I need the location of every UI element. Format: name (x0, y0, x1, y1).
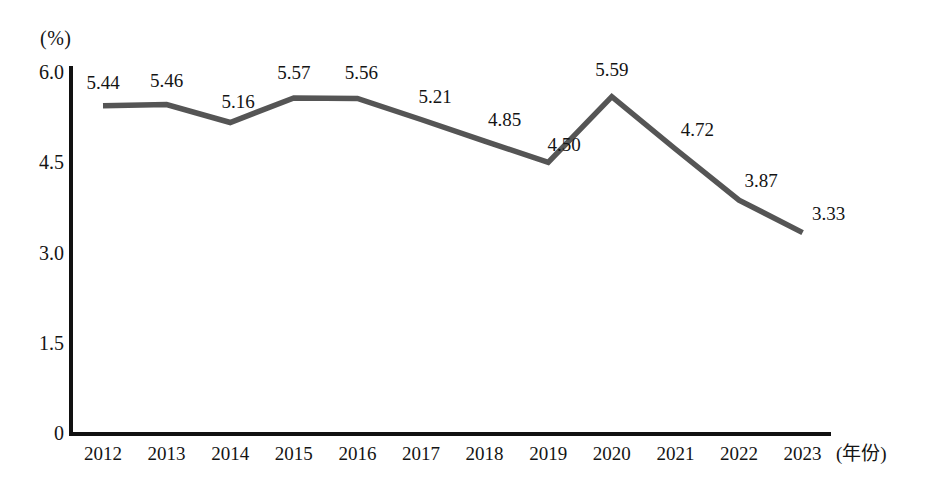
line-chart: (%) 01.53.04.56.0 2012201320142015201620… (0, 0, 925, 489)
data-value-label: 4.72 (681, 120, 714, 139)
data-value-label: 3.87 (744, 171, 777, 190)
data-value-label: 5.57 (277, 63, 310, 82)
plot-area (0, 0, 925, 489)
data-value-label: 5.16 (222, 92, 255, 111)
data-value-label: 5.46 (150, 71, 183, 90)
data-value-label: 4.85 (488, 110, 521, 129)
data-value-label: 5.59 (595, 60, 628, 79)
data-value-label: 3.33 (812, 204, 845, 223)
data-value-label: 5.44 (86, 73, 119, 92)
series-line (103, 97, 803, 233)
data-value-label: 5.21 (418, 87, 451, 106)
data-value-label: 4.50 (548, 135, 581, 154)
data-value-label: 5.56 (345, 63, 378, 82)
